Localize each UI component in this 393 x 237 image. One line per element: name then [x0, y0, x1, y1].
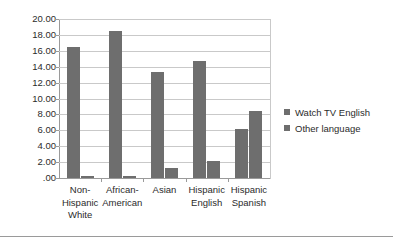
category-label: Asian	[143, 184, 185, 197]
bar	[109, 31, 122, 178]
y-tick-label: 2.00	[0, 157, 56, 167]
bar-group	[186, 19, 228, 178]
bar-chart-figure: 20.0018.0016.0014.0012.0010.008.006.004.…	[0, 0, 393, 237]
y-tick-label: 6.00	[0, 125, 56, 135]
bar-group	[59, 19, 101, 178]
bar	[249, 111, 262, 178]
bar-group	[101, 19, 143, 178]
y-tick-label: 20.00	[0, 14, 56, 24]
bar	[235, 129, 248, 178]
plot-right-edge	[270, 19, 271, 179]
gridline-.00	[59, 178, 270, 179]
legend-label: Other language	[295, 123, 361, 134]
legend-swatch-icon	[284, 109, 290, 115]
bar-group	[228, 19, 270, 178]
bar	[67, 47, 80, 178]
bar-group	[143, 19, 185, 178]
y-tick-label: 8.00	[0, 109, 56, 119]
category-tick-mark	[143, 178, 144, 182]
y-tick-label: 12.00	[0, 78, 56, 88]
category-label: African- American	[101, 184, 143, 209]
category-tick-mark	[101, 178, 102, 182]
legend-swatch-icon	[284, 125, 290, 131]
bar	[151, 72, 164, 178]
y-tick-label: 14.00	[0, 62, 56, 72]
y-tick-label: 16.00	[0, 46, 56, 56]
category-label: Hispanic Spanish	[228, 184, 270, 209]
bar	[193, 61, 206, 178]
bar	[123, 176, 136, 178]
bar	[207, 161, 220, 178]
category-tick-mark	[186, 178, 187, 182]
chart-legend: Watch TV EnglishOther language	[284, 104, 370, 136]
y-tick-label: 4.00	[0, 141, 56, 151]
category-tick-mark	[228, 178, 229, 182]
bar	[165, 168, 178, 178]
category-label: Hispanic English	[186, 184, 228, 209]
y-tick-label: 18.00	[0, 30, 56, 40]
y-tick-label: .00	[0, 173, 56, 183]
legend-label: Watch TV English	[295, 107, 370, 118]
bar	[81, 176, 94, 178]
y-tick-label: 10.00	[0, 94, 56, 104]
category-label: Non- Hispanic White	[59, 184, 101, 222]
plot-area	[59, 19, 270, 178]
legend-item: Other language	[284, 120, 370, 136]
legend-item: Watch TV English	[284, 104, 370, 120]
